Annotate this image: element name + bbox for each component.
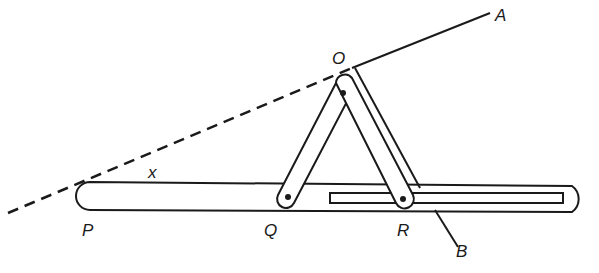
line-OB-lower bbox=[435, 210, 458, 247]
label-R: R bbox=[397, 221, 409, 240]
label-x: x bbox=[147, 163, 157, 182]
label-O: O bbox=[332, 49, 345, 68]
pivot-R bbox=[400, 196, 406, 202]
linkage-diagram: A O x P Q R B bbox=[0, 0, 599, 273]
label-Q: Q bbox=[264, 221, 277, 240]
label-A: A bbox=[494, 6, 506, 25]
base-slot bbox=[330, 193, 563, 203]
line-OA bbox=[352, 13, 490, 68]
label-P: P bbox=[82, 221, 94, 240]
pivot-O bbox=[340, 90, 346, 96]
label-B: B bbox=[456, 242, 467, 261]
pivot-Q bbox=[285, 194, 291, 200]
